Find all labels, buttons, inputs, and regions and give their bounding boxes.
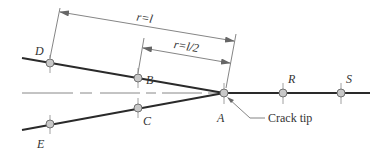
extension-line-d (50, 8, 60, 58)
crack-tip-diagram: r=l r=l/2 D B A C E R S Crack tip (0, 0, 391, 152)
node-s (337, 89, 345, 97)
node-b (134, 74, 142, 82)
crack-tip-label: Crack tip (268, 111, 312, 125)
dimension-r-l-half: r=l/2 (143, 37, 230, 63)
label-c: C (143, 114, 152, 128)
node-a (220, 89, 228, 97)
dimension-r-l: r=l (60, 10, 234, 41)
label-r: R (287, 72, 296, 86)
node-c (134, 104, 142, 112)
label-s: S (346, 72, 352, 86)
dimension-r-l-half-label: r=l/2 (173, 37, 200, 55)
label-b: B (146, 73, 154, 87)
crack-tip-leader (227, 97, 265, 118)
extension-line-b (138, 38, 144, 73)
node-d (46, 59, 54, 67)
label-a: A (216, 111, 225, 125)
label-d: D (34, 44, 44, 58)
node-e (46, 120, 54, 128)
extension-line-a (226, 34, 236, 88)
label-e: E (36, 137, 45, 151)
dimension-r-l-label: r=l (136, 10, 155, 27)
node-r (279, 89, 287, 97)
